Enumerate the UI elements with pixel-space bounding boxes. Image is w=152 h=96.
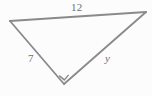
triangle-label-top: 12: [71, 2, 82, 13]
triangle-graphic: [0, 0, 152, 96]
triangle-diagram: 12 7 y: [0, 0, 152, 96]
triangle-side-left: [10, 21, 64, 84]
triangle-side-right: [64, 12, 146, 84]
triangle-label-right: y: [105, 53, 110, 64]
triangle-label-left: 7: [28, 53, 34, 64]
triangle-side-top: [10, 12, 146, 21]
